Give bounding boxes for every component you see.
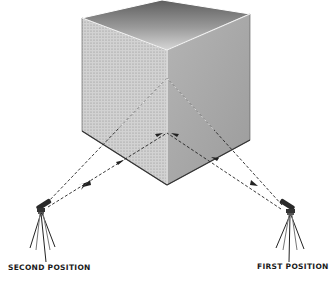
telescope-first-position xyxy=(276,198,304,262)
tripod-icon xyxy=(276,215,304,262)
cube xyxy=(82,0,250,185)
second-position-label: SECOND POSITION xyxy=(8,263,91,272)
telescope-icon xyxy=(279,198,295,215)
first-position-label: FIRST POSITION xyxy=(257,262,329,271)
arrowhead-first-mid xyxy=(250,180,258,186)
telescope-second-position xyxy=(30,198,55,262)
tripod-icon xyxy=(30,213,55,262)
